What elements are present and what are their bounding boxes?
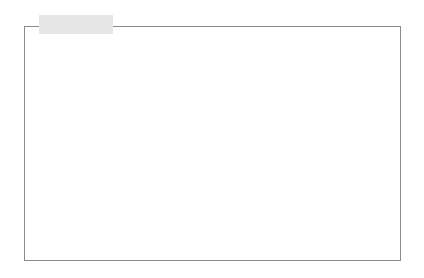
normal-curves-diagram	[0, 0, 424, 278]
